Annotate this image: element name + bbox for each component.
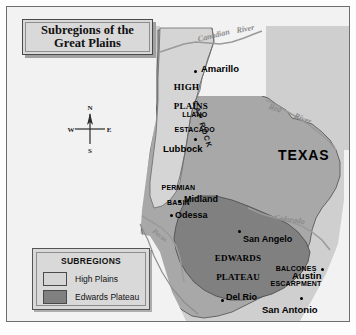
legend-label-edwards-plateau: Edwards Plateau	[75, 292, 139, 302]
legend-item-edwards-plateau: Edwards Plateau	[43, 290, 139, 304]
city-dot-del-rio	[221, 299, 224, 302]
city-label-lubbock: Lubbock	[163, 144, 203, 154]
city-dot-midland	[178, 200, 181, 203]
legend-swatch-edwards-plateau	[43, 290, 67, 304]
compass-rose: N S E W	[62, 100, 118, 156]
compass-label-east: E	[107, 126, 112, 134]
legend-item-high-plains: High Plains	[43, 272, 118, 286]
city-dot-amarillo	[194, 70, 197, 73]
city-label-del-rio: Del Rio	[226, 293, 257, 302]
map-title-plaque: Subregions of the Great Plains	[22, 19, 153, 55]
state-label-texas: TEXAS	[278, 148, 330, 163]
city-label-san-angelo: San Angelo	[243, 235, 292, 244]
city-label-midland: Midland	[184, 195, 218, 204]
city-dot-lubbock	[194, 138, 197, 141]
region-label-edwards-plateau: EDWARDS PLATEAU	[205, 245, 261, 292]
title-line-2: Great Plains	[54, 36, 121, 50]
city-label-san-antonio: San Antonio	[262, 305, 318, 315]
map-legend: SUBREGIONS High Plains Edwards Plateau	[32, 248, 150, 310]
city-dot-odessa	[170, 214, 173, 217]
city-label-amarillo: Amarillo	[201, 64, 239, 74]
legend-swatch-high-plains	[43, 272, 67, 286]
region-permian-line1: PERMIAN	[162, 184, 196, 191]
map-figure: Subregions of the Great Plains N S E W T…	[0, 0, 356, 335]
compass-label-north: N	[87, 104, 92, 112]
city-label-austin: Austin	[292, 271, 322, 281]
region-edwards-line2: PLATEAU	[216, 272, 260, 282]
title-line-1: Subregions of the	[41, 23, 134, 37]
legend-title: SUBREGIONS	[33, 256, 149, 266]
city-dot-san-antonio	[300, 297, 303, 300]
city-dot-san-angelo	[238, 230, 241, 233]
region-balcones-line2: ESCARPMENT	[271, 280, 322, 287]
page-title: Subregions of the Great Plains	[41, 24, 134, 50]
region-high-plains-line1: HIGH	[174, 82, 199, 92]
compass-label-south: S	[88, 147, 92, 155]
legend-label-high-plains: High Plains	[75, 274, 118, 284]
city-label-odessa: Odessa	[175, 211, 208, 220]
compass-label-west: W	[68, 126, 75, 134]
region-edwards-line1: EDWARDS	[215, 253, 261, 263]
